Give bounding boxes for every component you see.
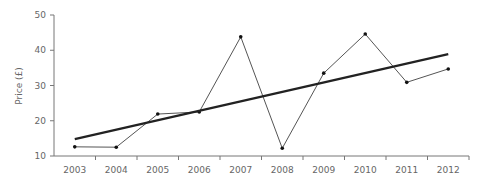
x-tick-label: 2003	[63, 165, 86, 175]
x-tick-label: 2009	[312, 165, 335, 175]
x-tick-label: 2008	[271, 165, 294, 175]
y-tick-label: 30	[35, 81, 47, 91]
y-axis: 1020304050 Price (£)	[14, 10, 54, 161]
x-tick-label: 2004	[105, 165, 128, 175]
x-tick-label: 2012	[437, 165, 460, 175]
data-point-marker	[363, 32, 367, 36]
data-point-marker	[446, 67, 450, 71]
y-tick-label: 50	[35, 10, 47, 20]
x-tick-label: 2007	[229, 165, 252, 175]
y-tick-label: 10	[35, 151, 47, 161]
data-point-marker	[405, 81, 409, 85]
x-tick-label: 2010	[354, 165, 377, 175]
data-point-marker	[280, 146, 284, 150]
data-point-marker	[322, 71, 326, 75]
x-tick-label: 2006	[188, 165, 211, 175]
x-tick-label: 2011	[395, 165, 418, 175]
x-tick-label: 2005	[146, 165, 169, 175]
x-axis: 2003200420052006200720082009201020112012	[54, 156, 469, 175]
plot-area	[73, 32, 450, 150]
y-axis-title: Price (£)	[14, 67, 24, 105]
data-point-marker	[156, 112, 160, 116]
price-line-chart: 1020304050 Price (£) 2003200420052006200…	[0, 0, 489, 185]
y-tick-label: 40	[35, 45, 47, 55]
y-tick-label: 20	[35, 116, 47, 126]
price-series-line	[75, 34, 449, 148]
data-point-marker	[114, 145, 118, 149]
data-point-marker	[239, 35, 243, 39]
data-point-marker	[73, 145, 77, 149]
trend-line	[75, 54, 449, 139]
